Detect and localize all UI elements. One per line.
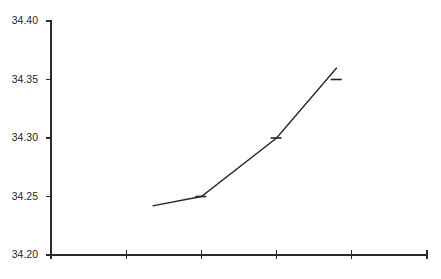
line-chart: 34.2034.2534.3034.3534.40 <box>0 0 441 279</box>
y-tick-label: 34.25 <box>12 190 38 202</box>
y-tick-label: 34.35 <box>12 73 38 85</box>
chart-background <box>0 0 441 279</box>
y-tick-label: 34.20 <box>12 248 38 260</box>
y-tick-label: 34.40 <box>12 14 38 26</box>
chart-container: 34.2034.2534.3034.3534.40 <box>0 0 441 279</box>
y-tick-label: 34.30 <box>12 131 38 143</box>
